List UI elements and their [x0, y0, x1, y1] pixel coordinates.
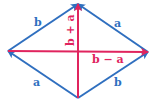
- vector-parallelogram-diagram: b a a b b + a b − a: [0, 0, 156, 101]
- label-b-minus-a: b − a: [92, 53, 124, 66]
- label-a-bottom: a: [33, 76, 40, 89]
- label-b-plus-a: b + a: [64, 14, 77, 46]
- vector-a-top: [78, 4, 148, 52]
- vector-a-bottom: [8, 51, 78, 98]
- vector-diff: [8, 51, 148, 52]
- label-a-top: a: [114, 17, 121, 30]
- label-b-top: b: [34, 16, 42, 29]
- label-b-bottom: b: [114, 76, 122, 89]
